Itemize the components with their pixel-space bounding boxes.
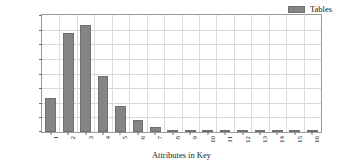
x-axis-tick-label: 9 bbox=[192, 136, 199, 140]
x-axis-tick-label: 8 bbox=[175, 136, 182, 140]
bar bbox=[63, 33, 74, 132]
x-axis-tick-label: 10 bbox=[210, 136, 217, 143]
x-axis-tick-label: 2 bbox=[70, 136, 77, 140]
y-axis-tick-mark bbox=[39, 30, 42, 31]
bar bbox=[45, 98, 56, 132]
x-axis-tick-label: 14 bbox=[279, 136, 286, 143]
bar bbox=[98, 76, 109, 132]
y-axis-tick-mark bbox=[39, 103, 42, 104]
x-axis-tick-label: 3 bbox=[88, 136, 95, 140]
x-axis-tick-mark bbox=[242, 132, 243, 135]
x-axis-tick-label: 6 bbox=[140, 136, 147, 140]
x-axis-tick-label: 15 bbox=[297, 136, 304, 143]
bar bbox=[80, 25, 91, 132]
x-axis-tick-label: 12 bbox=[245, 136, 252, 143]
x-axis-tick-label: 5 bbox=[122, 136, 129, 140]
x-axis-tick-mark bbox=[277, 132, 278, 135]
plot-area bbox=[41, 14, 322, 133]
y-axis-tick-mark bbox=[39, 44, 42, 45]
bar-chart-figure: Nr. of Tables Attributes in Key Tables 0… bbox=[0, 0, 340, 166]
x-axis-tick-mark bbox=[225, 132, 226, 135]
x-axis-tick-label: 4 bbox=[105, 136, 112, 140]
y-axis-tick-mark bbox=[39, 15, 42, 16]
x-axis-tick-mark bbox=[85, 132, 86, 135]
y-axis-tick-mark bbox=[39, 74, 42, 75]
x-axis-tick-mark bbox=[207, 132, 208, 135]
x-axis-tick-label: 7 bbox=[157, 136, 164, 140]
x-axis-tick-label: 13 bbox=[262, 136, 269, 143]
legend: Tables bbox=[288, 4, 332, 14]
bar bbox=[115, 106, 126, 132]
y-axis-tick-mark bbox=[39, 59, 42, 60]
y-axis-tick-mark bbox=[39, 131, 42, 132]
x-axis-tick-mark bbox=[312, 132, 313, 135]
legend-label-tables: Tables bbox=[310, 4, 332, 14]
x-axis-tick-label: 16 bbox=[314, 136, 321, 143]
x-axis-tick-mark bbox=[259, 132, 260, 135]
bars-layer bbox=[42, 15, 321, 132]
bar bbox=[133, 120, 144, 132]
x-axis-tick-label: 11 bbox=[227, 136, 234, 143]
x-axis-tick-mark bbox=[294, 132, 295, 135]
x-axis-tick-label: 1 bbox=[53, 136, 60, 140]
x-axis-title: Attributes in Key bbox=[41, 150, 322, 160]
y-axis-tick-mark bbox=[39, 88, 42, 89]
legend-swatch-tables bbox=[288, 6, 305, 13]
y-axis-tick-mark bbox=[39, 117, 42, 118]
